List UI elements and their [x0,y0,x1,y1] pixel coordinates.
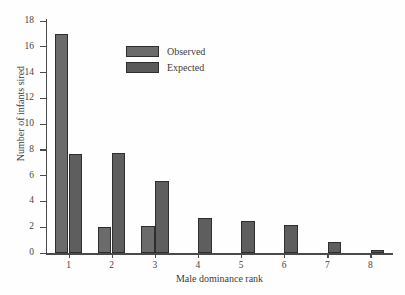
y-axis-tick [40,72,46,73]
chart-legend: ObservedExpected [126,44,205,76]
bar-chart-figure: 024681012141618 12345678 ObservedExpecte… [0,0,405,295]
x-axis-tick [241,254,242,258]
bar-expected-rank-6 [284,225,298,253]
legend-item-expected: Expected [126,60,205,74]
y-axis-tick [40,175,46,176]
x-axis-tick-label: 7 [317,260,337,270]
bar-observed-rank-1 [55,34,69,253]
x-axis-tick-label: 4 [188,260,208,270]
y-axis-tick [40,124,46,125]
x-axis-tick-label: 6 [274,260,294,270]
x-axis-label: Male dominance rank [46,273,393,284]
x-axis-tick-label: 5 [231,260,251,270]
bar-observed-rank-2 [98,227,112,253]
bar-expected-rank-5 [241,221,255,253]
x-axis-tick [198,254,199,258]
legend-label-expected: Expected [167,62,204,73]
bar-expected-rank-7 [328,242,342,253]
x-axis-tick [327,254,328,258]
y-axis-label: Number of infants sired [15,34,26,194]
plot-area [47,21,392,253]
x-axis-tick-label: 8 [360,260,380,270]
legend-label-observed: Observed [167,46,205,57]
x-axis-tick [155,254,156,258]
y-axis-tick [40,201,46,202]
x-axis-tick [284,254,285,258]
x-axis-tick [112,254,113,258]
y-axis-tick [40,98,46,99]
x-axis-tick [69,254,70,258]
x-axis-tick-label: 2 [102,260,122,270]
y-axis-tick-label: 4 [0,196,34,206]
bar-expected-rank-8 [371,250,385,253]
bar-expected-rank-3 [155,181,169,253]
x-axis-tick-label: 1 [59,260,79,270]
y-axis-tick [40,227,46,228]
x-axis-tick [370,254,371,258]
bar-expected-rank-4 [198,218,212,253]
y-axis-tick [40,149,46,150]
y-axis-tick-label: 0 [0,248,34,258]
y-axis-tick-label: 2 [0,222,34,232]
x-axis-tick-label: 3 [145,260,165,270]
bar-expected-rank-2 [112,153,126,253]
bar-expected-rank-1 [69,154,83,253]
legend-swatch-observed [126,46,159,57]
y-axis-tick [40,46,46,47]
bar-observed-rank-3 [141,226,155,253]
y-axis-tick-label: 18 [0,16,34,26]
y-axis-tick [40,253,46,254]
y-axis-tick [40,21,46,22]
legend-item-observed: Observed [126,44,205,58]
legend-swatch-expected [126,62,159,73]
x-axis-line [46,253,393,255]
